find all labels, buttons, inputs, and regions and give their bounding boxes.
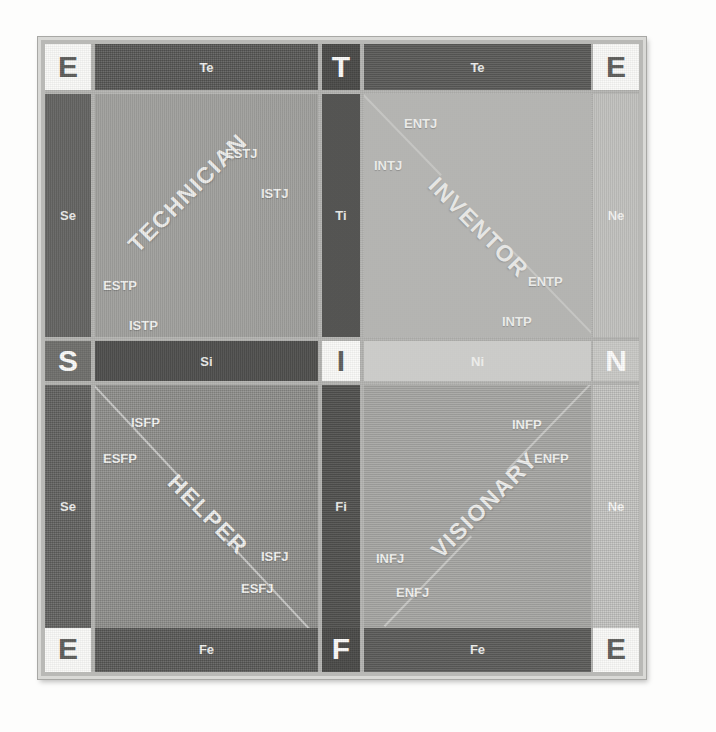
quadrant-helper-diagonal-upper xyxy=(95,385,184,481)
type-label-intp: INTP xyxy=(502,314,532,329)
type-label-infj: INFJ xyxy=(376,551,404,566)
function-bar-ne-bottom-label: Ne xyxy=(608,499,625,514)
function-bar-se-top: Se xyxy=(45,94,91,337)
function-bar-si: Si xyxy=(95,341,318,381)
axis-marker-intuition-right-label: N xyxy=(605,346,627,376)
axis-marker-feeling-bottom: F xyxy=(322,626,360,672)
function-bar-si-label: Si xyxy=(200,354,212,369)
axis-marker-introvert-center: I xyxy=(322,341,360,381)
axis-marker-thinking-top: T xyxy=(322,44,360,90)
axis-marker-feeling-bottom-label: F xyxy=(332,634,350,664)
function-bar-ti-label: Ti xyxy=(335,208,346,223)
function-bar-fi: Fi xyxy=(322,385,360,628)
axis-marker-thinking-top-label: T xyxy=(332,52,350,82)
axis-marker-sensing-left: S xyxy=(45,341,91,381)
function-bar-te-left: Te xyxy=(95,44,318,90)
corner-marker-bottom-right-label: E xyxy=(606,634,626,664)
corner-marker-bottom-left: E xyxy=(45,626,91,672)
corner-marker-top-left-label: E xyxy=(58,52,78,82)
diagram-frame: E E E E T F S N xyxy=(38,37,646,679)
axis-marker-introvert-center-label: I xyxy=(337,346,345,376)
function-bar-se-top-label: Se xyxy=(60,208,76,223)
type-label-entj: ENTJ xyxy=(404,116,437,131)
type-label-isfj: ISFJ xyxy=(261,549,288,564)
function-bar-te-left-label: Te xyxy=(199,60,213,75)
function-bar-se-bottom: Se xyxy=(45,385,91,628)
corner-marker-top-right-label: E xyxy=(606,52,626,82)
type-label-infp: INFP xyxy=(512,417,542,432)
function-bar-fe-left-label: Fe xyxy=(199,642,214,657)
type-label-isfp: ISFP xyxy=(131,415,160,430)
type-label-enfp: ENFP xyxy=(534,451,569,466)
function-bar-ne-bottom: Ne xyxy=(593,385,639,628)
corner-marker-top-left: E xyxy=(45,44,91,90)
function-bar-te-right-label: Te xyxy=(470,60,484,75)
function-bar-ne-top: Ne xyxy=(593,94,639,337)
function-bar-te-right: Te xyxy=(364,44,591,90)
type-label-istp: ISTP xyxy=(129,318,158,333)
axis-marker-sensing-left-label: S xyxy=(58,346,78,376)
axis-marker-intuition-right: N xyxy=(593,341,639,381)
type-label-estj: ESTJ xyxy=(225,146,258,161)
function-bar-fe-right: Fe xyxy=(364,626,591,672)
quadrant-visionary-title: VISIONARY xyxy=(426,447,544,565)
function-bar-fe-left: Fe xyxy=(95,626,318,672)
type-label-esfj: ESFJ xyxy=(241,581,274,596)
quadrant-helper-title: HELPER xyxy=(162,469,253,560)
corner-marker-top-right: E xyxy=(593,44,639,90)
function-bar-fi-label: Fi xyxy=(335,499,347,514)
quadrant-inventor[interactable]: INVENTOR ENTJ INTJ ENTP INTP xyxy=(364,94,591,337)
function-bar-ni-label: Ni xyxy=(471,354,484,369)
type-label-esfp: ESFP xyxy=(103,451,137,466)
function-bar-fe-right-label: Fe xyxy=(470,642,485,657)
quadrant-visionary[interactable]: VISIONARY INFP ENFP INFJ ENFJ xyxy=(364,385,591,628)
quadrant-technician[interactable]: TECHNICIAN ESTJ ISTJ ESTP ISTP xyxy=(95,94,318,337)
quadrant-helper[interactable]: HELPER ISFP ESFP ISFJ ESFJ xyxy=(95,385,318,628)
function-bar-se-bottom-label: Se xyxy=(60,499,76,514)
type-label-intj: INTJ xyxy=(374,158,402,173)
corner-marker-bottom-right: E xyxy=(593,626,639,672)
corner-marker-bottom-left-label: E xyxy=(58,634,78,664)
type-label-entp: ENTP xyxy=(528,274,563,289)
quadrant-inventor-title: INVENTOR xyxy=(423,172,534,283)
scanned-page: E E E E T F S N xyxy=(0,0,716,732)
function-bar-ne-top-label: Ne xyxy=(608,208,625,223)
type-label-istj: ISTJ xyxy=(261,186,288,201)
function-bar-ti: Ti xyxy=(322,94,360,337)
diagram-grid: E E E E T F S N xyxy=(45,44,639,672)
function-bar-ni: Ni xyxy=(364,341,591,381)
type-label-enfj: ENFJ xyxy=(396,585,429,600)
type-label-estp: ESTP xyxy=(103,278,137,293)
